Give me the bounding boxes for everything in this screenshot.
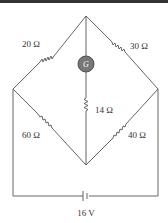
resistor-14-ohm xyxy=(84,72,88,165)
label-battery-voltage: 16 V xyxy=(77,208,95,218)
label-30-ohm: 30 Ω xyxy=(130,41,148,51)
label-40-ohm: 40 Ω xyxy=(128,130,146,140)
label-20-ohm: 20 Ω xyxy=(22,39,40,49)
label-60-ohm: 60 Ω xyxy=(22,130,40,140)
circuit-diagram: G 20 Ω 30 Ω 60 Ω 40 Ω 14 Ω 16 V xyxy=(0,0,168,223)
label-14-ohm: 14 Ω xyxy=(95,105,113,115)
resistor-60-ohm xyxy=(13,89,86,165)
outer-wire xyxy=(13,89,158,196)
galvanometer-label: G xyxy=(83,60,89,69)
resistor-20-ohm xyxy=(13,16,86,89)
resistor-30-ohm xyxy=(86,16,158,89)
resistor-40-ohm xyxy=(86,89,158,165)
